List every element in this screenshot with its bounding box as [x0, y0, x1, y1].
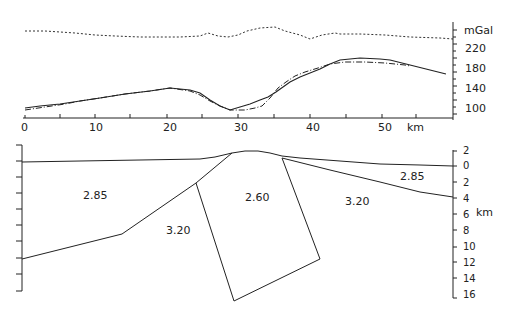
gravity-profile-chart: 0 10 20 30 40 50 km mGal 220 180 140 100: [21, 22, 493, 134]
depth-tick-6: 6: [463, 209, 469, 220]
depth-axis-unit: km: [476, 206, 493, 219]
depth-tick-8: 8: [463, 225, 469, 236]
density-label-right-upper: 2.85: [400, 170, 425, 183]
y-tick-140: 140: [465, 82, 486, 95]
x-axis-ticks: [25, 114, 416, 118]
depth-tick-10: 10: [463, 241, 476, 252]
x-tick-50: 50: [378, 121, 392, 134]
regional-dotted-curve: [25, 27, 453, 39]
depth-tick-minus2: 2: [463, 145, 469, 156]
density-label-left-lower: 3.20: [166, 224, 191, 237]
central-block-outline: [196, 158, 320, 301]
left-layer-boundary: [22, 153, 232, 259]
x-tick-20: 20: [163, 121, 177, 134]
depth-tick-14: 14: [463, 273, 476, 284]
density-label-central: 2.60: [245, 191, 270, 204]
right-depth-ticks: [453, 151, 457, 298]
depth-tick-2: 2: [463, 177, 469, 188]
calculated-dashdot-curve: [25, 62, 410, 110]
surface-line: [22, 151, 453, 166]
y-tick-100: 100: [465, 102, 486, 115]
y-axis-unit: mGal: [464, 24, 493, 37]
x-tick-10: 10: [89, 121, 103, 134]
y-tick-180: 180: [465, 62, 486, 75]
y-axis-ticks: [453, 30, 457, 114]
density-label-right-lower: 3.20: [345, 195, 370, 208]
right-layer-boundary: [282, 158, 453, 197]
depth-tick-12: 12: [463, 257, 476, 268]
x-tick-30: 30: [234, 121, 248, 134]
x-axis-unit: km: [407, 121, 424, 134]
y-tick-220: 220: [465, 42, 486, 55]
observed-solid-curve: [25, 58, 446, 110]
density-label-left-upper: 2.85: [83, 189, 108, 202]
depth-tick-16: 16: [463, 289, 476, 300]
x-tick-0: 0: [21, 121, 28, 134]
figure: 0 10 20 30 40 50 km mGal 220 180 140 100: [0, 0, 506, 314]
x-tick-40: 40: [306, 121, 320, 134]
left-depth-ticks: [16, 145, 22, 291]
density-model-diagram: 2 0 2 4 6 8 10 12 14 16 km 2.85 3.20 2.6…: [16, 145, 493, 301]
depth-tick-4: 4: [463, 193, 469, 204]
depth-tick-0: 0: [463, 160, 469, 171]
